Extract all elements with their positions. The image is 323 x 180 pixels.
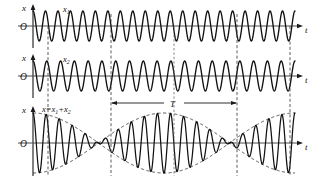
period-label: T: [170, 99, 176, 109]
panel-x2-value-axis-label: x: [21, 53, 26, 63]
sum-equation-label: x=x1+x2: [41, 104, 71, 115]
panel-x2: x O t x2: [18, 53, 308, 98]
envelope-lower-curve: [33, 143, 295, 173]
panel-sum-value-axis-arrow: [31, 106, 36, 112]
period-arrow-left-head: [111, 101, 117, 105]
guide-lines: [48, 14, 290, 176]
panel-sum: x O t x=x1+x2: [18, 104, 308, 176]
period-measure: T: [111, 99, 237, 109]
panel-x1: x O t x1: [18, 3, 308, 48]
period-arrow-right-head: [231, 101, 237, 105]
envelope-upper-curve: [33, 113, 295, 143]
panel-x1-value-axis-arrow: [31, 4, 36, 10]
panel-x2-time-axis-label: t: [305, 75, 308, 85]
panel-sum-value-axis-label: x: [21, 105, 26, 115]
panel-x2-value-axis-arrow: [31, 54, 36, 60]
panel-x1-origin-label: O: [20, 22, 27, 32]
panel-sum-origin-label: O: [20, 139, 27, 149]
beats-figure: x O t x1 x O t x2 x O t: [0, 0, 323, 180]
panel-sum-time-axis-label: t: [305, 142, 308, 152]
panel-x2-origin-label: O: [20, 72, 27, 82]
beats-diagram: x O t x1 x O t x2 x O t: [0, 0, 323, 180]
panel-x1-time-axis-label: t: [305, 25, 308, 35]
wave-x1-label: x1: [62, 4, 70, 15]
panel-x1-time-axis-arrow: [297, 24, 303, 28]
panel-x2-time-axis-arrow: [297, 74, 303, 78]
wave-x2-label: x2: [62, 54, 70, 65]
panel-sum-time-axis-arrow: [297, 141, 303, 145]
panel-x1-value-axis-label: x: [21, 3, 26, 13]
